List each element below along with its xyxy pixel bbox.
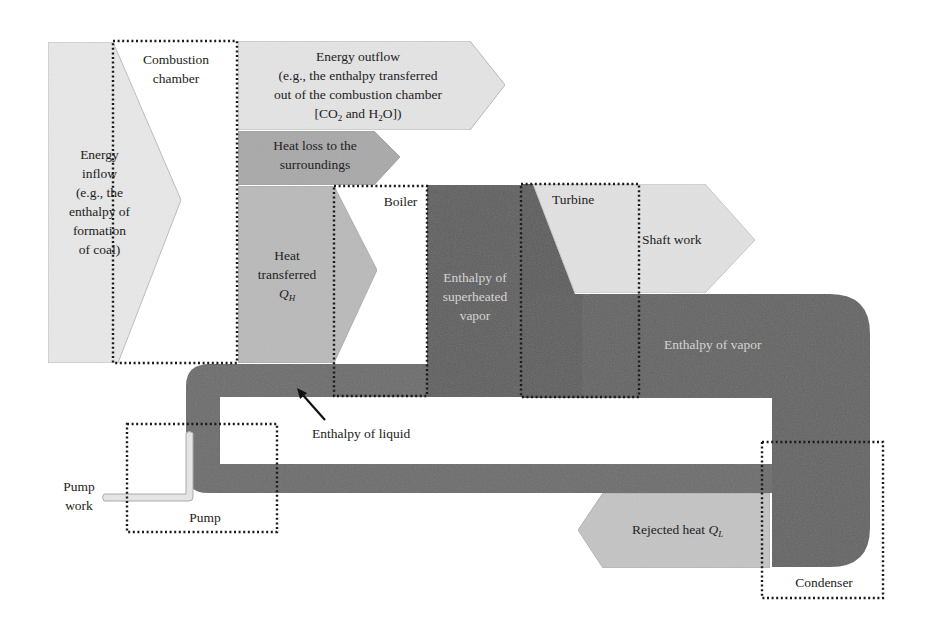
- condenser-label-text: Condenser: [795, 575, 853, 590]
- heat-loss-line1: Heat loss to the: [250, 136, 380, 155]
- ql-symbol: Q: [708, 522, 718, 537]
- superheated-line1: Enthalpy of: [428, 268, 522, 287]
- combustion-chamber-label-line1: Combustion: [122, 50, 230, 69]
- superheated-line2: superheated: [428, 287, 522, 306]
- energy-inflow-line: Energy: [52, 145, 147, 164]
- energy-outflow-line3: out of the combustion chamber: [248, 85, 468, 104]
- superheated-vapor-label: Enthalpy of superheated vapor: [428, 268, 522, 325]
- vapor-pipe-lower: [522, 294, 582, 398]
- vapor-label-text: Enthalpy of vapor: [664, 337, 761, 352]
- heat-transferred-symbol: QH: [242, 284, 332, 308]
- energy-inflow-label: Energy inflow (e.g., the enthalpy of for…: [52, 145, 147, 259]
- turbine-label-text: Turbine: [552, 192, 594, 207]
- heat-transferred-line1: Heat: [242, 246, 332, 265]
- h2o-suffix: O]): [383, 106, 402, 121]
- energy-outflow-line2: (e.g., the enthalpy transferred: [248, 66, 468, 85]
- heat-transferred-label: Heat transferred QH: [242, 246, 332, 308]
- vapor-label: Enthalpy of vapor: [664, 335, 761, 354]
- pump-work-line2: work: [54, 496, 104, 515]
- pump-work-pipe: [103, 432, 194, 502]
- pump-label-text: Pump: [189, 510, 221, 525]
- liquid-pointer-arrow: [302, 394, 325, 420]
- combustion-chamber-label-line2: chamber: [122, 69, 230, 88]
- condenser-label: Condenser: [765, 573, 883, 592]
- energy-inflow-line: inflow: [52, 164, 147, 183]
- boiler-label-text: Boiler: [384, 194, 418, 209]
- energy-inflow-line: formation: [52, 221, 147, 240]
- turbine-label: Turbine: [552, 190, 594, 209]
- h2o-text: and H: [342, 106, 378, 121]
- pump-work-label: Pump work: [54, 477, 104, 515]
- energy-outflow-line1: Energy outflow: [248, 47, 468, 66]
- heat-transferred-line2: transferred: [242, 265, 332, 284]
- co2-text: [CO: [315, 106, 338, 121]
- ql-subscript: L: [718, 529, 723, 539]
- heat-loss-line2: surroundings: [250, 155, 380, 174]
- combustion-chamber-label: Combustion chamber: [122, 50, 230, 88]
- pump-label: Pump: [175, 508, 235, 527]
- liquid-label-text: Enthalpy of liquid: [312, 426, 410, 441]
- energy-outflow-label: Energy outflow (e.g., the enthalpy trans…: [248, 47, 468, 128]
- energy-outflow-line4: [CO2 and H2O]): [248, 104, 468, 128]
- qh-subscript: H: [289, 293, 296, 303]
- qh-symbol: Q: [279, 286, 289, 301]
- energy-inflow-line: of coal): [52, 240, 147, 259]
- shaft-work-label-text: Shaft work: [642, 232, 702, 247]
- energy-inflow-line: (e.g., the: [52, 183, 147, 202]
- shaft-work-label: Shaft work: [642, 230, 702, 249]
- rejected-heat-label: Rejected heat QL: [632, 520, 723, 544]
- pump-work-line1: Pump: [54, 477, 104, 496]
- heat-loss-label: Heat loss to the surroundings: [250, 136, 380, 174]
- rejected-heat-text: Rejected heat: [632, 522, 708, 537]
- liquid-label: Enthalpy of liquid: [312, 424, 410, 443]
- superheated-line3: vapor: [428, 306, 522, 325]
- boiler-label: Boiler: [378, 192, 423, 211]
- energy-inflow-line: enthalpy of: [52, 202, 147, 221]
